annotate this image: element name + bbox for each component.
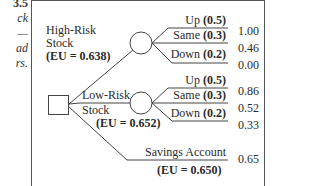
utility-value: 1.00 [238,25,259,38]
outcome-same-low-risk: Same (0.3) [150,89,226,102]
option-label-low-risk-line1: Low-Risk [82,89,130,102]
outcome-down-high-risk: Down (0.2) [150,48,226,61]
chance-node-low-risk [130,92,152,114]
outcome-up-high-risk: Up (0.5) [160,14,226,27]
outcome-label: Up [185,73,200,87]
outcome-label: Down [171,106,200,120]
utility-value: 0.52 [238,102,259,115]
utility-value: 0.46 [238,42,259,55]
chance-node-high-risk [130,32,152,54]
outcome-label: Down [171,47,200,61]
decision-node-square [49,96,69,115]
utility-value: 0.33 [238,119,259,132]
outcome-up-low-risk: Up (0.5) [160,74,226,87]
option-label-savings-eu: (EU = 0.650) [157,164,222,177]
option-label-savings: Savings Account [130,146,226,159]
outcome-label: Same [173,88,200,102]
outcome-label: Same [173,28,200,42]
utility-value: 0.00 [238,59,259,72]
utility-value: 0.65 [238,153,259,166]
expected-utility-label: (EU = 0.650) [157,163,222,177]
option-label-high-risk: High-Risk Stock (EU = 0.638) [46,24,111,63]
outcome-same-high-risk: Same (0.3) [150,29,226,42]
outcome-label: Up [185,13,200,27]
outcome-probability: (0.3) [203,88,226,102]
outcome-probability: (0.5) [203,73,226,87]
outcome-probability: (0.2) [203,47,226,61]
expected-utility-label: (EU = 0.638) [46,49,111,63]
utility-value: 0.86 [238,85,259,98]
outcome-down-low-risk: Down (0.2) [150,107,226,120]
outcome-probability: (0.2) [203,106,226,120]
outcome-probability: (0.5) [203,13,226,27]
outcome-probability: (0.3) [203,28,226,42]
